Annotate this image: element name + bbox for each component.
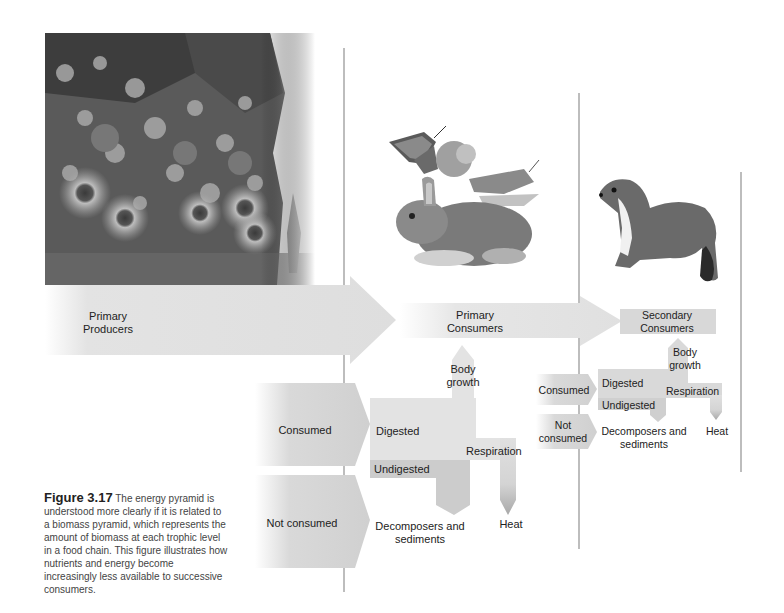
respiration-heat-arrow-secondary [710, 395, 722, 420]
digested-label-secondary: Digested [602, 377, 643, 390]
decomposers-label-secondary: Decomposers and sediments [598, 425, 690, 450]
heat-label-secondary: Heat [702, 425, 732, 438]
figure-caption: Figure 3.17 The energy pyramid is unders… [44, 491, 229, 596]
body-growth-label-secondary: Body growth [664, 346, 706, 371]
decomposers-label-primary: Decomposers and sediments [372, 520, 468, 546]
secondary-consumers-label: Secondary Consumers [626, 309, 708, 334]
undigested-label-secondary: Undigested [602, 399, 655, 412]
respiration-label-secondary: Respiration [666, 385, 719, 398]
digested-label-primary: Digested [376, 425, 419, 438]
caption-text: The energy pyramid is understood more cl… [44, 493, 227, 595]
figure-number: Figure 3.17 [44, 490, 113, 505]
body-growth-label-primary: Body growth [442, 363, 484, 389]
not-consumed-label-secondary: Not consumed [534, 419, 592, 444]
undigested-label-primary: Undigested [374, 463, 430, 476]
not-consumed-label-primary: Not consumed [262, 517, 342, 530]
consumed-label-secondary: Consumed [538, 384, 590, 397]
primary-consumers-label: Primary Consumers [430, 309, 520, 335]
respiration-label-primary: Respiration [466, 445, 522, 458]
primary-producers-label: Primary Producers [78, 310, 138, 336]
consumed-label-primary: Consumed [270, 424, 340, 437]
heat-label-primary: Heat [496, 518, 526, 531]
